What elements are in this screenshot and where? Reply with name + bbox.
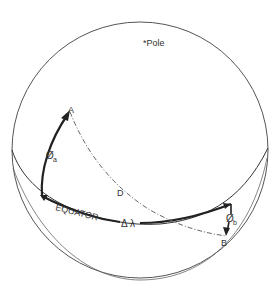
distance-label: D: [117, 188, 124, 198]
arrowhead-b: [223, 227, 230, 236]
sphere-diagram: *Pole A B D EQUATOR Δ λ Ø a Ø b: [0, 0, 280, 295]
point-a-label: A: [68, 105, 74, 115]
arrowhead-equator: [223, 203, 231, 209]
phi-b-label: Ø b: [226, 213, 237, 226]
delta-lambda-label: Δ λ: [121, 218, 135, 229]
svg-text:a: a: [53, 156, 57, 163]
point-b-label: B: [221, 238, 227, 248]
svg-text:b: b: [233, 219, 237, 226]
equator-label: EQUATOR: [55, 202, 100, 222]
pole-label: *Pole: [143, 38, 165, 48]
phi-a-label: Ø a: [46, 150, 57, 163]
